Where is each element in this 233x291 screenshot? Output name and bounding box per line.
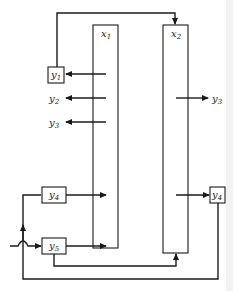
unit-x2-subscript: 2 [176, 33, 182, 41]
block-y4-left-subscript: 4 [54, 194, 59, 202]
unit-x1-subscript: 1 [107, 33, 111, 41]
line-y5-to-x2 [54, 254, 176, 266]
block-y1-subscript: 1 [57, 74, 61, 82]
block-y4-right-subscript: 4 [217, 194, 222, 202]
block-y4-right: y4 [210, 187, 225, 203]
block-y5: y5 [42, 238, 66, 254]
block-y5-subscript: 5 [55, 245, 60, 253]
block-y1: y1 [48, 67, 64, 83]
unit-x1: x1 [93, 25, 118, 248]
block-y4-left: y4 [42, 187, 66, 203]
feed-line-to-y5 [10, 241, 41, 246]
output-y2: y2 [48, 93, 60, 106]
process-diagram: x1 x2 y1 y2 y3 y3 y4 y5 y4 [0, 0, 233, 291]
output-y3-right: y3 [211, 93, 223, 106]
output-y3-left: y3 [48, 117, 60, 130]
unit-x2: x2 [163, 25, 188, 253]
